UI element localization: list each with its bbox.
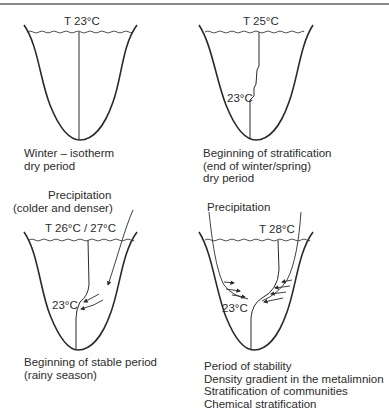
temperature-profile-rainy (76, 240, 89, 349)
caption-line: (rainy season) (24, 369, 157, 382)
lake-basin-winter (24, 25, 137, 140)
caption-line: Beginning of stable period (24, 356, 157, 369)
left-inflow-stream (209, 212, 248, 299)
caption-line: Chemical stratification (204, 398, 384, 411)
caption-line: Density gradient in the metalimnion (204, 373, 384, 386)
caption-line: Winter – isotherm (24, 147, 114, 160)
surface-temp-winter: T 23°C (64, 15, 100, 28)
surface-temp-rainy: T 26°C / 27°C (45, 222, 116, 235)
precipitation-label-rainy: Precipitation (48, 189, 111, 202)
depth-temp-rainy: 23°C (52, 299, 78, 312)
lake-basin-stable (199, 212, 313, 350)
water-surface-spring (205, 31, 304, 33)
left-arrow-1 (224, 282, 234, 283)
surface-temp-stable: T 28°C (259, 223, 295, 236)
caption-spring: Beginning of stratification (end of wint… (203, 147, 332, 185)
water-surface-stable (205, 239, 310, 241)
lake-basin-spring (199, 25, 313, 140)
caption-line: dry period (203, 172, 332, 185)
precipitation-sublabel-rainy: (colder and denser) (13, 202, 113, 215)
caption-line: Beginning of stratification (203, 147, 332, 160)
caption-line: dry period (24, 160, 114, 173)
precipitation-label-stable: Precipitation (207, 201, 270, 214)
water-surface-rainy (29, 239, 134, 241)
caption-winter: Winter – isotherm dry period (24, 147, 114, 172)
depth-temp-stable: 23°C (222, 302, 248, 315)
caption-line: Stratification of communities (204, 385, 384, 398)
right-arrow-3 (271, 292, 286, 294)
surface-temp-spring: T 25°C (243, 15, 279, 28)
caption-rainy: Beginning of stable period (rainy season… (24, 356, 157, 381)
caption-line: Period of stability (204, 360, 384, 373)
depth-temp-spring: 23°C (227, 92, 253, 105)
caption-stable: Period of stability Density gradient in … (204, 360, 384, 410)
temperature-profile-spring (250, 32, 259, 139)
caption-line: (end of winter/spring) (203, 160, 332, 173)
temperature-profile-stable (251, 240, 279, 349)
